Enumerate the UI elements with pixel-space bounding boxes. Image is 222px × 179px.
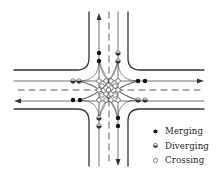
arrow-west	[14, 99, 21, 104]
open-dot-icon	[151, 156, 160, 165]
arrow-east	[197, 79, 204, 84]
legend-label: Diverging	[165, 141, 209, 151]
arrow-north	[97, 13, 102, 20]
road-edge-top-right	[128, 12, 204, 70]
legend-item-merging: Merging	[151, 124, 209, 139]
half-filled-dot-icon	[151, 141, 160, 150]
legend-item-crossing: Crossing	[151, 153, 209, 168]
legend-item-diverging: Diverging	[151, 139, 209, 154]
road-edge-top-left	[14, 12, 89, 70]
legend: Merging Diverging Crossing	[151, 124, 209, 168]
filled-dot-icon	[151, 127, 160, 136]
legend-label: Crossing	[165, 155, 204, 165]
road-edge-bottom-left	[14, 109, 89, 166]
arrow-south	[116, 159, 121, 166]
legend-label: Merging	[165, 126, 203, 136]
